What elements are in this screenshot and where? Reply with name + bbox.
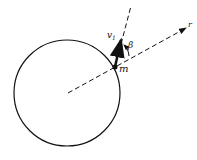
radial-axis-line [68, 28, 186, 93]
mass-label: m [119, 63, 128, 74]
orbit-circle [14, 40, 120, 146]
diagram-canvas: v1 β m r [0, 0, 197, 160]
velocity-label: v1 [107, 30, 116, 41]
mass-point [113, 65, 118, 70]
radial-label: r [188, 20, 193, 29]
angle-label: β [127, 40, 133, 50]
